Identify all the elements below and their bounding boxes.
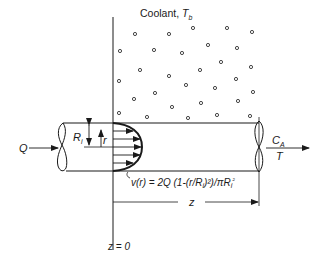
coolant-particle	[153, 91, 156, 94]
coolant-particle	[199, 101, 202, 104]
outlet-temp-label: T	[276, 150, 284, 162]
coolant-particle	[235, 46, 238, 49]
coolant-particle	[152, 48, 155, 51]
coolant-particle	[167, 74, 170, 77]
coolant-particle	[213, 86, 216, 89]
coolant-particle	[180, 51, 183, 54]
coolant-particle	[206, 43, 209, 46]
tubular-reactor-diagram: Ri r Q CA T v(r) = 2Q (1-(r/Ri)²)/πRi² z…	[0, 0, 325, 265]
coolant-particle	[191, 26, 194, 29]
coolant-particle	[117, 111, 120, 114]
coolant-particle	[249, 65, 252, 68]
axial-length-label: z	[188, 196, 195, 208]
coolant-particle	[219, 60, 222, 63]
coolant-particle	[250, 30, 253, 33]
equation-leader	[127, 172, 130, 178]
velocity-equation: v(r) = 2Q (1-(r/Ri)²)/πRi²	[131, 176, 235, 189]
coolant-particle	[234, 77, 237, 80]
coolant-particle	[198, 68, 201, 71]
coolant-particle	[184, 83, 187, 86]
coolant-particle	[186, 116, 189, 119]
coolant-particle	[145, 115, 148, 118]
origin-label: z = 0	[107, 241, 130, 252]
velocity-arrows	[113, 131, 141, 163]
outlet-conc-label: CA	[272, 134, 285, 148]
coolant-particle	[133, 32, 136, 35]
coolant-particle	[170, 105, 173, 108]
coolant-particle	[118, 49, 121, 52]
coolant-particle	[225, 26, 228, 29]
radius-label: Ri	[73, 131, 83, 145]
coolant-particle	[132, 97, 135, 100]
coolant-particles	[117, 26, 254, 119]
coolant-particle	[167, 32, 170, 35]
inlet-flow-label: Q	[19, 142, 28, 154]
coolant-particle	[138, 68, 141, 71]
pipe-left-break-icon	[57, 123, 66, 171]
radial-coord-label: r	[103, 134, 108, 146]
coolant-particle	[117, 79, 120, 82]
coolant-particle	[236, 99, 239, 102]
coolant-particle	[251, 90, 254, 93]
coolant-particle	[215, 113, 218, 116]
coolant-particle	[248, 114, 251, 117]
coolant-label: Coolant, Tb	[140, 7, 192, 21]
